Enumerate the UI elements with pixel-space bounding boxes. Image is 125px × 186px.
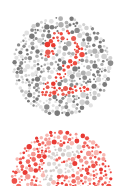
ishihara-plate-2-image [0, 0, 125, 125]
ishihara-plate-6-image [0, 128, 125, 186]
color-plate-top: 2 [0, 0, 125, 125]
color-plate-bottom: 6 [0, 128, 125, 186]
